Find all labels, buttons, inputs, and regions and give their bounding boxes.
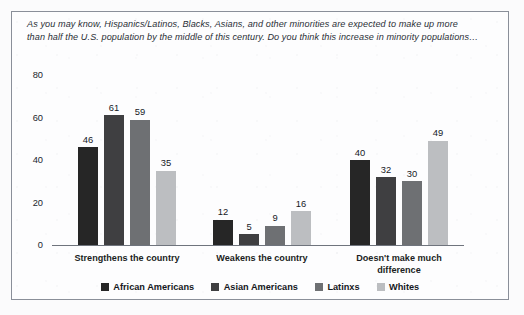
- bar-rect[interactable]: [213, 220, 233, 246]
- bar-value-label: 61: [109, 102, 119, 113]
- bar-value-label: 16: [296, 198, 306, 209]
- bar-rect[interactable]: [156, 171, 176, 245]
- bar-value-label: 59: [135, 106, 145, 117]
- bar-value-label: 35: [161, 157, 171, 168]
- legend-swatch-icon: [101, 283, 109, 291]
- legend-swatch-icon: [377, 283, 385, 291]
- bar[interactable]: 12: [213, 64, 233, 245]
- x-axis-baseline: [52, 245, 464, 246]
- bar[interactable]: 40: [350, 64, 370, 245]
- bar-value-label: 30: [407, 168, 417, 179]
- bar[interactable]: 5: [239, 64, 259, 245]
- bar[interactable]: 9: [265, 64, 285, 245]
- x-axis-category-label: Doesn't make much difference: [332, 253, 466, 276]
- legend-label: Asian Americans: [224, 282, 298, 292]
- legend-swatch-icon: [211, 283, 219, 291]
- bar-value-label: 5: [246, 221, 251, 232]
- bar-value-label: 32: [381, 164, 391, 175]
- legend-item[interactable]: African Americans: [101, 282, 194, 292]
- y-axis-tick-label: 80: [33, 70, 43, 80]
- legend-label: Latinxs: [327, 282, 359, 292]
- bar-rect[interactable]: [78, 147, 98, 245]
- legend-item[interactable]: Whites: [377, 282, 420, 292]
- legend-swatch-icon: [315, 283, 323, 291]
- legend-label: Whites: [389, 282, 419, 292]
- x-axis-category-label: Strengthens the country: [60, 253, 194, 265]
- bar[interactable]: 35: [156, 64, 176, 245]
- bar-rect[interactable]: [291, 211, 311, 245]
- legend-label: African Americans: [113, 282, 194, 292]
- question-title: As you may know, Hispanics/Latinos, Blac…: [27, 18, 495, 44]
- bar[interactable]: 61: [104, 64, 124, 245]
- bar[interactable]: 49: [428, 64, 448, 245]
- bar-group-bars: 46615935: [78, 64, 176, 245]
- bar-group-bars: 125916: [213, 64, 311, 245]
- bar[interactable]: 32: [376, 64, 396, 245]
- bar-group-bars: 40323049: [350, 64, 448, 245]
- bar[interactable]: 46: [78, 64, 98, 245]
- question-title-line-2: than half the U.S. population by the mid…: [27, 31, 495, 44]
- bar-value-label: 46: [83, 134, 93, 145]
- legend-item[interactable]: Asian Americans: [211, 282, 298, 292]
- bar-rect[interactable]: [265, 226, 285, 245]
- chart-legend: African AmericansAsian AmericansLatinxsW…: [12, 282, 508, 292]
- bar-rect[interactable]: [402, 181, 422, 245]
- bar[interactable]: 16: [291, 64, 311, 245]
- legend-item[interactable]: Latinxs: [315, 282, 360, 292]
- bar-value-label: 40: [355, 147, 365, 158]
- bar-rect[interactable]: [104, 115, 124, 245]
- bar-rect[interactable]: [130, 120, 150, 245]
- y-axis-tick-label: 20: [33, 198, 43, 208]
- y-axis-tick-label: 60: [33, 113, 43, 123]
- bar-rect[interactable]: [239, 234, 259, 245]
- bar-value-label: 9: [272, 212, 277, 223]
- bar-value-label: 12: [218, 206, 228, 217]
- y-axis-tick-label: 0: [38, 240, 43, 250]
- y-axis-tick-label: 40: [33, 155, 43, 165]
- bar-value-label: 49: [433, 127, 443, 138]
- plot-area: 020406080 46615935Strengthens the countr…: [50, 64, 490, 246]
- figure-panel: As you may know, Hispanics/Latinos, Blac…: [11, 11, 509, 300]
- bar-rect[interactable]: [376, 177, 396, 245]
- question-title-line-1: As you may know, Hispanics/Latinos, Blac…: [27, 18, 495, 31]
- bar[interactable]: 59: [130, 64, 150, 245]
- bar-rect[interactable]: [428, 141, 448, 245]
- bar[interactable]: 30: [402, 64, 422, 245]
- x-axis-category-label: Weakens the country: [195, 253, 329, 265]
- bar-rect[interactable]: [350, 160, 370, 245]
